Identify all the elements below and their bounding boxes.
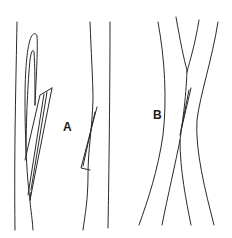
- panel-a-left-fiber: [15, 22, 52, 230]
- panel-a-right-fiber: [81, 22, 110, 230]
- panel-b-fibers: [139, 17, 218, 225]
- diagram-canvas: [0, 0, 232, 238]
- panel-a-label: A: [63, 121, 72, 133]
- panel-b-label: B: [153, 109, 162, 121]
